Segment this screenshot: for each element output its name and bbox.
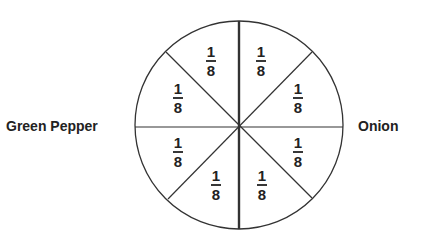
numerator: 1 [294,80,302,97]
slice-label-bottom-right: 1 8 [257,167,267,203]
slice-label-left-lower: 1 8 [173,134,183,170]
slice-label-right-upper: 1 8 [293,80,303,116]
slice-label-right-lower: 1 8 [293,134,303,170]
slice-label-top-right: 1 8 [256,43,266,79]
denominator: 8 [294,153,302,170]
slice-label-left-upper: 1 8 [173,80,183,116]
denominator: 8 [258,186,266,203]
numerator: 1 [174,80,182,97]
numerator: 1 [207,43,215,60]
denominator: 8 [207,62,215,79]
numerator: 1 [294,134,302,151]
onion-label: Onion [358,118,398,134]
denominator: 8 [174,99,182,116]
denominator: 8 [257,62,265,79]
numerator: 1 [258,167,266,184]
green-pepper-label: Green Pepper [6,118,98,134]
numerator: 1 [212,167,220,184]
numerator: 1 [174,134,182,151]
denominator: 8 [174,153,182,170]
slice-label-top-left: 1 8 [206,43,216,79]
slice-label-bottom-left: 1 8 [211,167,221,203]
numerator: 1 [257,43,265,60]
denominator: 8 [212,186,220,203]
denominator: 8 [294,99,302,116]
divider-lines [135,21,343,229]
